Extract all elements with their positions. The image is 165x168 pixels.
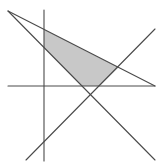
diagram-canvas [0, 0, 165, 168]
line-group [8, 10, 155, 161]
geometric-figure [0, 0, 165, 168]
